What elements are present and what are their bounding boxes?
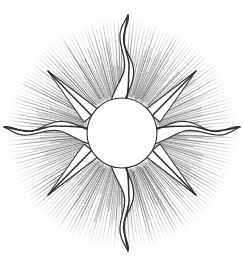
solar-disc	[87, 98, 157, 168]
sunburst-svg	[0, 0, 244, 264]
sunburst-illustration	[0, 0, 244, 264]
